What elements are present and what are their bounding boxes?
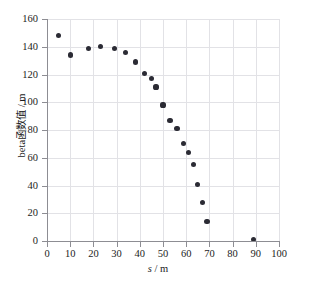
x-axis-title-unit: m	[160, 263, 168, 274]
x-axis-tick	[163, 242, 164, 247]
y-axis-tick-label: 0	[33, 236, 38, 247]
data-point	[200, 200, 205, 205]
gridline-horizontal	[47, 130, 279, 131]
data-point	[174, 126, 179, 131]
data-point	[186, 150, 191, 155]
x-axis-tick	[140, 242, 141, 247]
gridline-horizontal	[47, 213, 279, 214]
x-axis-title-separator: /	[152, 263, 160, 274]
x-axis-tick	[93, 242, 94, 247]
x-axis-tick	[47, 242, 48, 247]
gridline-horizontal	[47, 186, 279, 187]
y-axis-tick-label: 160	[22, 14, 38, 25]
x-axis-tick	[279, 242, 280, 247]
data-point	[86, 46, 91, 51]
data-point	[149, 76, 154, 81]
data-point	[153, 84, 158, 89]
data-point	[167, 118, 172, 123]
y-axis-tick	[42, 19, 47, 20]
y-axis-tick	[42, 75, 47, 76]
data-point	[123, 50, 128, 55]
y-axis-title: beta函数值 / m	[13, 26, 28, 226]
data-point	[98, 44, 103, 49]
data-point	[204, 219, 209, 224]
y-axis-tick	[42, 241, 47, 242]
x-axis-tick	[256, 242, 257, 247]
y-axis-line	[47, 19, 48, 242]
data-point	[133, 59, 138, 64]
data-point	[160, 102, 165, 107]
scatter-chart: 0102030405060708090100020406080100120140…	[0, 0, 316, 282]
gridline-horizontal	[47, 158, 279, 159]
y-axis-tick	[42, 130, 47, 131]
x-axis-title: s / m	[0, 263, 316, 274]
gridline-horizontal	[47, 47, 279, 48]
y-axis-tick-label: 20	[28, 208, 39, 219]
data-point	[112, 46, 117, 51]
x-axis-tick	[70, 242, 71, 247]
x-axis-tick	[233, 242, 234, 247]
data-point	[56, 33, 61, 38]
gridline-horizontal	[47, 75, 279, 76]
data-point	[68, 52, 73, 57]
x-axis-tick	[186, 242, 187, 247]
gridline-horizontal	[47, 19, 279, 20]
data-point	[191, 162, 196, 167]
y-axis-tick	[42, 186, 47, 187]
y-axis-tick	[42, 47, 47, 48]
y-axis-tick	[42, 102, 47, 103]
data-point	[142, 71, 147, 76]
x-axis-tick	[209, 242, 210, 247]
x-axis-tick-label: 100	[264, 249, 294, 260]
y-axis-tick	[42, 158, 47, 159]
x-axis-tick	[117, 242, 118, 247]
y-axis-tick-label: 80	[28, 125, 39, 136]
y-axis-tick	[42, 213, 47, 214]
gridline-vertical	[279, 19, 280, 241]
plot-area	[47, 19, 279, 241]
y-axis-tick-label: 40	[28, 181, 39, 192]
y-axis-tick-label: 60	[28, 153, 39, 164]
